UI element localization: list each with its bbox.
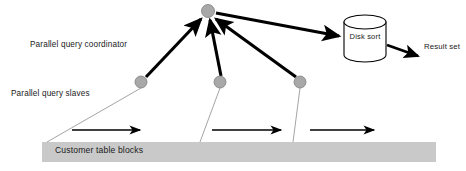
coordinator-node	[202, 5, 215, 18]
customer-table-blocks-label: Customer table blocks	[55, 146, 143, 156]
slave-node-3	[294, 76, 306, 88]
slave-arrow-3	[216, 19, 296, 77]
slave-nodes	[135, 76, 306, 88]
coordinator-label: Parallel query coordinator	[30, 40, 127, 49]
slaves-label: Parallel query slaves	[11, 89, 90, 98]
slave-arrow-1	[146, 19, 201, 77]
disk-sort-label: Disk sort	[346, 33, 384, 42]
slave-to-coordinator-arrows	[146, 19, 296, 77]
result-set-label: Result set	[424, 42, 464, 52]
disk-to-result-arrow	[387, 45, 418, 56]
leader-line-2	[200, 88, 220, 142]
leader-line-3	[293, 88, 300, 142]
slave-node-2	[214, 76, 226, 88]
slave-arrow-2	[210, 20, 221, 76]
parallel-query-diagram: Parallel query coordinator Parallel quer…	[0, 0, 466, 171]
slave-node-1	[135, 76, 147, 88]
